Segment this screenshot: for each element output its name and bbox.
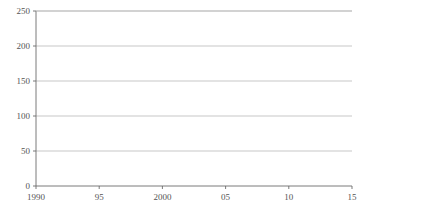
x-tick-label: 15 — [348, 192, 358, 202]
x-tick-label: 05 — [221, 192, 231, 202]
y-tick-label: 200 — [17, 41, 31, 51]
y-tick-label: 150 — [17, 76, 31, 86]
x-tick-label: 10 — [284, 192, 294, 202]
y-tick-label: 0 — [26, 181, 31, 191]
x-axis-tick-labels: 1990952000051015 — [27, 186, 357, 202]
y-tick-label: 250 — [17, 6, 31, 16]
x-tick-label: 2000 — [153, 192, 172, 202]
line-chart: 050100150200250 1990952000051015 — [0, 0, 444, 217]
y-tick-label: 100 — [17, 111, 31, 121]
x-tick-label: 1990 — [27, 192, 46, 202]
plot-frame — [36, 11, 352, 186]
x-tick-label: 95 — [95, 192, 105, 202]
gridlines — [36, 11, 352, 151]
y-tick-label: 50 — [21, 146, 31, 156]
chart-container: 050100150200250 1990952000051015 — [0, 0, 444, 217]
y-axis-tick-labels: 050100150200250 — [17, 6, 37, 191]
